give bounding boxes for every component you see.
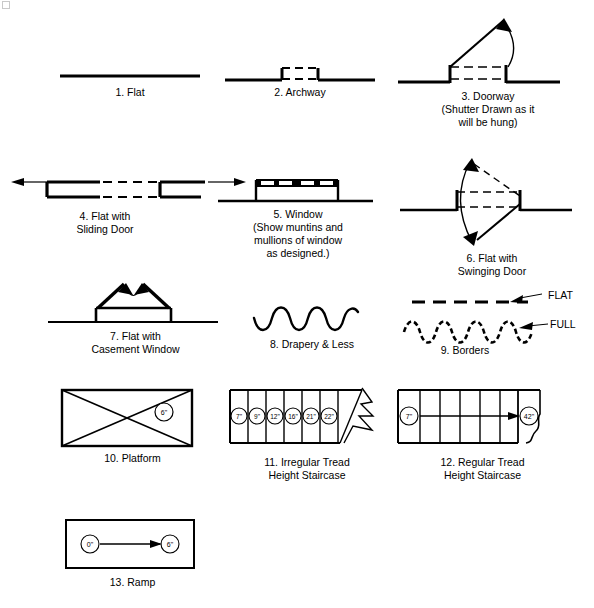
sliding-door-symbol	[5, 170, 205, 206]
platform-symbol: 6"	[40, 386, 225, 448]
figure-doorway: 3. Doorway (Shutter Drawn as it will be …	[388, 12, 588, 132]
figure-flat: 1. Flat	[40, 60, 220, 106]
regular-staircase-symbol: 7" 42"	[390, 386, 575, 448]
doorway-symbol	[388, 12, 588, 90]
tread-height-1: 7"	[236, 413, 243, 420]
regular-end-height: 42"	[524, 413, 535, 420]
figure-flat-with-sliding-door: 4. Flat with Sliding Door	[5, 170, 205, 240]
figure-regular-tread-staircase: 7" 42" 12. Regular Tread Height Staircas…	[390, 386, 575, 481]
tread-height-6: 22"	[324, 413, 334, 420]
figure-drapery-and-less: 8. Drapery & Less	[232, 310, 392, 366]
swinging-door-symbol	[392, 152, 592, 252]
figure-borders-caption: 9. Borders	[390, 344, 540, 357]
legend-sheet: 1. Flat 2. Archway 3. Doorway (Shutter D…	[0, 0, 594, 608]
tread-height-5: 21"	[306, 413, 316, 420]
figure-platform: 6" 10. Platform	[40, 386, 225, 476]
borders-flat-label: FLAT	[548, 289, 573, 301]
figure-archway-caption: 2. Archway	[215, 86, 385, 99]
figure-casement-window-caption: 7. Flat with Casement Window	[38, 330, 233, 356]
tread-height-2: 9"	[254, 413, 261, 420]
figure-ramp-caption: 13. Ramp	[40, 576, 225, 589]
window-symbol	[208, 170, 388, 206]
figure-swinging-door-caption: 6. Flat with Swinging Door	[392, 252, 592, 278]
flat-symbol	[40, 60, 220, 86]
figure-archway: 2. Archway	[215, 60, 385, 106]
figure-flat-caption: 1. Flat	[40, 86, 220, 99]
tread-height-3: 12"	[270, 413, 280, 420]
figure-flat-with-casement-window: 7. Flat with Casement Window	[38, 278, 233, 368]
figure-irregular-tread-staircase: 7" 9" 12" 16" 21" 22" 11. Irregular Trea…	[222, 386, 392, 481]
figure-drapery-caption: 8. Drapery & Less	[232, 338, 392, 351]
ramp-start-height: 0"	[87, 541, 94, 548]
regular-start-height: 7"	[406, 413, 413, 420]
figure-flat-with-swinging-door: 6. Flat with Swinging Door	[392, 152, 592, 260]
figure-doorway-caption: 3. Doorway (Shutter Drawn as it will be …	[388, 90, 588, 129]
drapery-symbol	[232, 310, 392, 336]
page-corner-mark	[2, 1, 10, 9]
ramp-symbol: 0" 6"	[40, 516, 225, 572]
casement-window-symbol	[38, 278, 233, 328]
figure-platform-caption: 10. Platform	[40, 452, 225, 465]
figure-window-caption: 5. Window (Show muntins and mullions of …	[208, 208, 388, 260]
archway-symbol	[215, 60, 385, 86]
figure-ramp: 0" 6" 13. Ramp	[40, 516, 225, 596]
borders-full-label: FULL	[550, 318, 576, 330]
figure-window: 5. Window (Show muntins and mullions of …	[208, 170, 388, 270]
tread-height-4: 16"	[288, 413, 298, 420]
figure-sliding-door-caption: 4. Flat with Sliding Door	[5, 210, 205, 236]
platform-height-label: 6"	[161, 409, 168, 416]
borders-symbol: FLAT FULL	[390, 288, 590, 344]
figure-borders: FLAT FULL 9. Borders	[390, 288, 590, 360]
figure-irregular-staircase-caption: 11. Irregular Tread Height Staircase	[222, 456, 392, 482]
irregular-staircase-symbol: 7" 9" 12" 16" 21" 22"	[222, 386, 392, 448]
ramp-end-height: 6"	[167, 541, 174, 548]
figure-regular-staircase-caption: 12. Regular Tread Height Staircase	[390, 456, 575, 482]
